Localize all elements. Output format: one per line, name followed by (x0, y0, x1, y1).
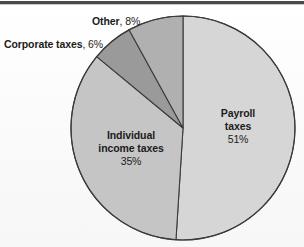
slice-label-corporate-taxes-name: Corporate taxes (4, 38, 82, 50)
slice-label-individual-income-taxes-name-line1: Individual (79, 129, 183, 142)
slice-label-payroll-taxes: Payroll taxes 51% (199, 107, 277, 145)
slice-label-corporate-taxes-value: , 6% (82, 38, 103, 50)
slice-label-payroll-taxes-value: 51% (199, 133, 277, 146)
slice-label-individual-income-taxes-value: 35% (79, 155, 183, 168)
slice-label-other-value: , 8% (120, 15, 141, 27)
slice-label-individual-income-taxes-name-line2: income taxes (79, 142, 183, 155)
pie-chart-figure: Other, 8% Corporate taxes, 6% Payroll ta… (0, 0, 304, 247)
slice-label-other-name: Other (92, 15, 120, 27)
slice-label-payroll-taxes-name-line2: taxes (199, 120, 277, 133)
slice-label-individual-income-taxes: Individual income taxes 35% (79, 129, 183, 167)
slice-label-corporate-taxes: Corporate taxes, 6% (4, 33, 103, 53)
slice-label-other: Other, 8% (92, 10, 140, 30)
slice-label-payroll-taxes-name-line1: Payroll (199, 107, 277, 120)
